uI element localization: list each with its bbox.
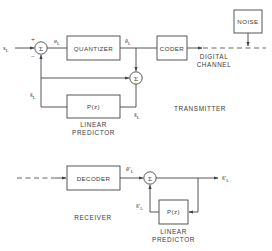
transmitter-section: sL Σ + − eL QUANTIZER ẽL CODER ŝL Σ s̃L [3, 36, 226, 136]
output-signal-label: s̃′L [222, 174, 229, 183]
receiver-feedback-line [189, 178, 198, 212]
receiver-predicted-label: ŝ′L [136, 202, 143, 211]
channel-section: NOISE DIGITAL CHANNEL [187, 10, 266, 68]
plus-sign: + [31, 36, 35, 44]
received-error-label: ẽ′L [126, 165, 134, 174]
error-signal-label: eL [54, 37, 60, 46]
diagram-svg: sL Σ + − eL QUANTIZER ẽL CODER ŝL Σ s̃L [0, 0, 272, 251]
minus-sign: − [31, 53, 35, 61]
channel-caption-line2: CHANNEL [197, 61, 232, 68]
quantizer-label: QUANTIZER [74, 45, 113, 52]
receiver-sum-symbol: Σ [148, 175, 152, 183]
quantized-error-label: ẽL [125, 37, 131, 46]
sum-symbol-2: Σ [134, 75, 138, 83]
transmitter-label: TRANSMITTER [174, 105, 226, 112]
decoder-label: DECODER [77, 175, 111, 182]
channel-caption-line1: DIGITAL [200, 53, 229, 60]
reconstructed-line [120, 84, 136, 107]
predicted-signal-label: ŝL [30, 91, 36, 100]
reconstructed-signal-label: s̃L [134, 111, 140, 120]
receiver-section: DECODER ẽ′L Σ s̃′L P(z) ŝ′L LINEAR PREDI… [17, 165, 229, 243]
predictor-caption-line1: LINEAR [80, 121, 107, 128]
receiver-predicted-line [150, 185, 159, 212]
receiver-label: RECEIVER [74, 214, 111, 221]
coder-label: CODER [160, 45, 184, 52]
predictor-label: P(z) [87, 103, 100, 110]
receiver-predictor-caption-line1: LINEAR [160, 228, 187, 235]
receiver-predictor-label: P(z) [167, 208, 180, 215]
input-signal-label: sL [3, 44, 9, 53]
receiver-predictor-caption-line2: PREDICTOR [152, 236, 195, 243]
noise-label: NOISE [237, 18, 258, 25]
dpcm-block-diagram: sL Σ + − eL QUANTIZER ẽL CODER ŝL Σ s̃L [0, 0, 272, 251]
predictor-caption-line2: PREDICTOR [72, 129, 115, 136]
sum-symbol-1: Σ [39, 45, 43, 53]
